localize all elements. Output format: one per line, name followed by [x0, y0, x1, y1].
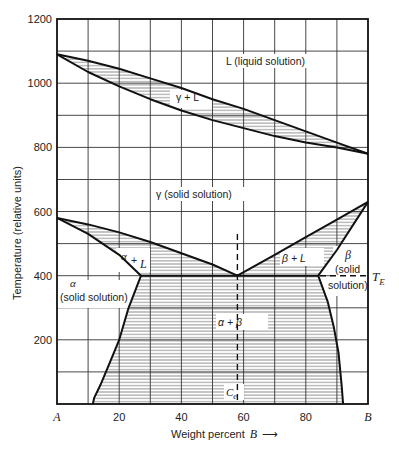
label-beta-L: β + L [281, 252, 306, 264]
label-alpha-solid-solution: (solid solution) [60, 291, 128, 303]
y-tick-1200: 1200 [28, 13, 52, 25]
label-TE: TE [372, 269, 385, 287]
x-tick-60: 60 [237, 411, 249, 423]
y-tick-800: 800 [34, 141, 52, 153]
label-beta-solution: solution) [328, 279, 368, 291]
label-gamma-solid-solution: γ (solid solution) [156, 188, 232, 200]
label-beta: β [344, 248, 351, 262]
x-axis-title: Weight percentB⟶ [171, 427, 278, 441]
phase-diagram: L (liquid solution) γ + L γ (solid solut… [0, 0, 399, 454]
y-tick-400: 400 [34, 270, 52, 282]
label-beta-solid: (solid [335, 263, 360, 275]
x-tick-A: A [52, 410, 61, 424]
y-tick-200: 200 [34, 334, 52, 346]
label-gamma: γ + L [176, 91, 199, 103]
y-axis-ticks: 200 400 600 800 1000 1200 [28, 13, 52, 346]
y-tick-600: 600 [34, 206, 52, 218]
y-tick-1000: 1000 [28, 77, 52, 89]
label-alpha-L-plus: + [131, 254, 137, 266]
label-alpha-L-L: L [139, 257, 147, 271]
label-alpha-plus-beta: α + β [218, 316, 242, 328]
x-tick-80: 80 [300, 411, 312, 423]
x-tick-B: B [364, 410, 372, 424]
x-axis-ticks: A 20 40 60 80 B [52, 410, 372, 424]
x-tick-20: 20 [113, 411, 125, 423]
label-L-italic: L (liquid solution) [226, 55, 305, 67]
y-axis-title: Temperature (relative units) [11, 166, 23, 300]
label-alpha-L-alpha: α [121, 250, 127, 262]
x-tick-40: 40 [175, 411, 187, 423]
label-alpha: α [70, 277, 76, 289]
